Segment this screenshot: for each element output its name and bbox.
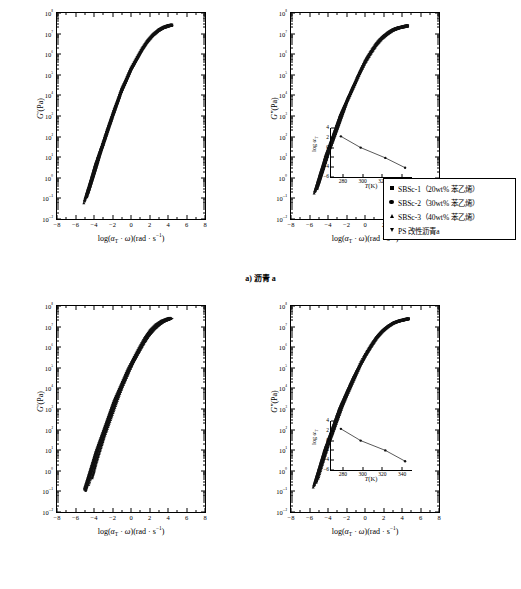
y-minor-tick — [437, 101, 439, 102]
y-minor-tick — [291, 415, 293, 416]
y-minor-tick — [203, 481, 205, 482]
y-minor-tick — [57, 431, 59, 432]
y-minor-tick — [57, 77, 59, 78]
figure-root: G'(Pa) 10−²10−¹10⁰10¹10²10³10⁴10⁵10⁶10⁷1… — [0, 0, 521, 589]
y-minor-tick — [437, 17, 439, 18]
y-minor-tick — [437, 410, 439, 411]
x-tick-label: −2 — [109, 222, 116, 229]
y-minor-tick — [437, 96, 439, 97]
y-minor-tick — [291, 161, 293, 162]
y-minor-tick — [57, 68, 59, 69]
y-minor-tick — [57, 473, 59, 474]
y-minor-tick — [57, 475, 59, 476]
y-minor-tick — [437, 81, 439, 82]
y-minor-tick — [57, 314, 59, 315]
y-minor-tick — [437, 478, 439, 479]
y-minor-tick — [57, 485, 59, 486]
y-minor-tick — [291, 171, 293, 172]
x-minor-tick — [318, 217, 319, 219]
y-minor-tick — [203, 374, 205, 375]
y-axis-label: G'(Pa) — [36, 372, 45, 432]
y-tick-mark — [291, 157, 295, 158]
y-minor-tick — [291, 64, 293, 65]
x-minor-tick — [355, 306, 356, 308]
y-minor-tick — [437, 505, 439, 506]
x-minor-tick — [158, 306, 159, 308]
y-tick-label: 10−¹ — [276, 194, 287, 203]
x-minor-tick — [103, 13, 104, 15]
y-minor-tick — [203, 85, 205, 86]
y-minor-tick — [291, 374, 293, 375]
y-minor-tick — [437, 502, 439, 503]
y-minor-tick — [437, 497, 439, 498]
y-minor-tick — [437, 21, 439, 22]
y-minor-tick — [291, 351, 293, 352]
y-minor-tick — [203, 431, 205, 432]
x-tick-mark — [205, 215, 206, 219]
y-minor-tick — [437, 160, 439, 161]
y-minor-tick — [57, 350, 59, 351]
y-minor-tick — [203, 23, 205, 24]
y-minor-tick — [437, 452, 439, 453]
y-minor-tick — [203, 505, 205, 506]
y-minor-tick — [57, 437, 59, 438]
y-minor-tick — [203, 456, 205, 457]
x-tick-mark — [365, 306, 366, 310]
x-minor-tick — [195, 306, 196, 308]
y-minor-tick — [291, 316, 293, 317]
x-tick-mark — [168, 508, 169, 512]
y-minor-tick — [57, 472, 59, 473]
y-minor-tick — [291, 443, 293, 444]
y-minor-tick — [57, 452, 59, 453]
y-minor-tick — [291, 81, 293, 82]
y-minor-tick — [203, 399, 205, 400]
y-tick-label: 10−¹ — [42, 487, 53, 496]
inset-y-tick-label: −4 — [323, 164, 329, 170]
legend-item[interactable]: PS 改性沥青a — [387, 223, 512, 237]
y-minor-tick — [437, 47, 439, 48]
x-tick-mark — [328, 306, 329, 310]
y-axis-unit: (Pa) — [36, 98, 45, 111]
x-tick-mark — [57, 306, 58, 310]
y-tick-mark — [201, 367, 205, 368]
x-tick-mark — [439, 13, 440, 17]
y-minor-tick — [291, 68, 293, 69]
x-tick-mark — [112, 13, 113, 17]
x-tick-mark — [94, 13, 95, 17]
y-minor-tick — [437, 399, 439, 400]
y-minor-tick — [291, 492, 293, 493]
y-minor-tick — [57, 410, 59, 411]
legend-item[interactable]: SBSc-2（30wt% 苯乙烯） — [387, 195, 512, 209]
plot-a-storage: G'(Pa) 10−²10−¹10⁰10¹10²10³10⁴10⁵10⁶10⁷1… — [12, 8, 218, 256]
y-minor-tick — [437, 415, 439, 416]
y-tick-mark — [57, 347, 61, 348]
y-minor-tick — [437, 355, 439, 356]
y-minor-tick — [437, 147, 439, 148]
inset-frame: −6−4−2024280300320340 — [330, 128, 412, 178]
inset-y-tick-label: 2 — [326, 428, 329, 434]
y-tick-mark — [291, 470, 295, 471]
y-minor-tick — [57, 34, 59, 35]
y-minor-tick — [437, 430, 439, 431]
y-minor-tick — [57, 209, 59, 210]
y-tick-mark — [291, 33, 295, 34]
x-tick-label: 6 — [419, 515, 422, 522]
y-minor-tick — [203, 99, 205, 100]
legend-item[interactable]: SBSc-1（20wt% 苯乙烯） — [387, 181, 512, 195]
y-minor-tick — [203, 97, 205, 98]
y-minor-tick — [203, 76, 205, 77]
y-minor-tick — [57, 139, 59, 140]
y-minor-tick — [57, 415, 59, 416]
legend-item[interactable]: SBSc-3（40wt% 苯乙烯） — [387, 209, 512, 223]
y-minor-tick — [437, 76, 439, 77]
y-minor-tick — [203, 109, 205, 110]
y-tick-label: 10⁴ — [45, 384, 53, 393]
y-minor-tick — [203, 204, 205, 205]
y-tick-label: 10⁴ — [279, 91, 287, 100]
x-tick-mark — [365, 13, 366, 17]
y-minor-tick — [203, 451, 205, 452]
y-minor-tick — [57, 492, 59, 493]
y-minor-tick — [291, 119, 293, 120]
y-minor-tick — [203, 310, 205, 311]
y-minor-tick — [203, 454, 205, 455]
